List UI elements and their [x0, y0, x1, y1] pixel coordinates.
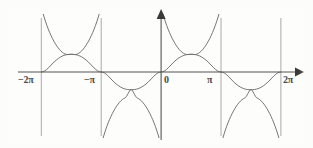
x-tick-label-2pi: 2π	[283, 74, 293, 85]
plot-canvas	[0, 0, 313, 148]
csc-branch-4-lower	[223, 90, 279, 138]
x-tick-label-zero: 0	[164, 74, 169, 85]
csc-branch-2-lower	[103, 90, 159, 138]
csc-branch-1-upper	[43, 14, 99, 55]
x-tick-label-pi: π	[207, 74, 212, 85]
x-axis-arrow-icon	[295, 68, 304, 77]
x-tick-label-minus-2pi: −2π	[18, 74, 34, 85]
x-tick-label-minus-pi: −π	[84, 74, 95, 85]
csc-graph-figure: −2π −π 0 π 2π	[0, 0, 313, 148]
y-axis-arrow-icon	[157, 9, 166, 19]
csc-branch-3-upper	[163, 14, 219, 55]
